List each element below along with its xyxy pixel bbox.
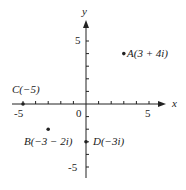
x-axis [12, 101, 166, 107]
point-a-dot [122, 52, 126, 56]
y-axis-label: y [81, 5, 87, 17]
y-axis [83, 20, 89, 178]
point-a-label: A(3 + 4i) [126, 47, 168, 60]
y-tick-label-5: 5 [75, 34, 81, 46]
y-tick-label-neg5: -5 [68, 161, 78, 173]
x-axis-label: x [171, 97, 177, 109]
x-tick-label-neg5: -5 [14, 107, 24, 119]
point-b-dot [46, 127, 50, 131]
y-axis-arrow-icon [83, 20, 89, 28]
complex-plane: x y 0 -5 5 5 -5 A(3 + 4i) B(−3 − 2i) C(−… [0, 0, 186, 190]
origin-label: 0 [76, 107, 82, 119]
point-c-dot [21, 102, 25, 106]
point-d-dot [84, 140, 88, 144]
point-c-label: C(−5) [12, 83, 40, 96]
point-d-label: D(−3i) [92, 135, 125, 148]
point-b-label: B(−3 − 2i) [24, 135, 73, 148]
x-tick-label-5: 5 [145, 107, 151, 119]
x-axis-arrow-icon [158, 101, 166, 107]
